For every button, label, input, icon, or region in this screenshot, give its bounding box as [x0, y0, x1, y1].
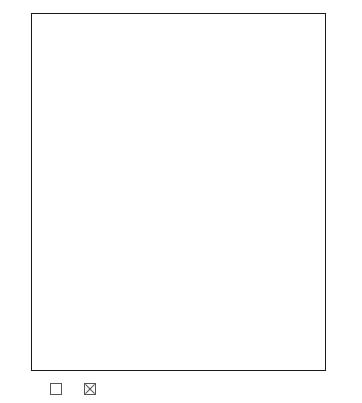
chart-key: [32, 383, 102, 395]
main-colour-swatch-icon: [50, 383, 62, 395]
knitting-chart-grid: [31, 13, 326, 371]
contrast-colour-swatch-icon: [84, 383, 96, 395]
